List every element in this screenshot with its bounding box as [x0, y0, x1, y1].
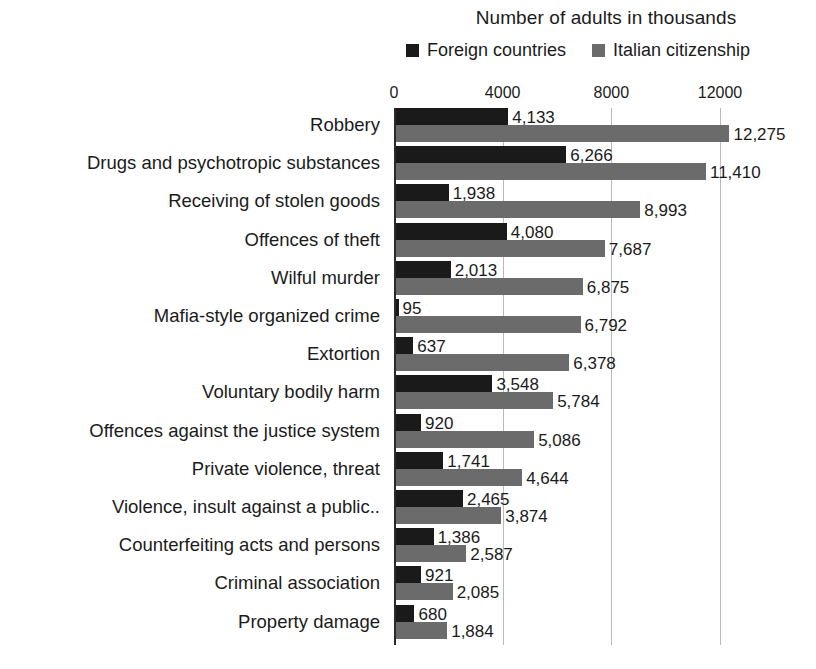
bar-value-label: 2,587 [470, 546, 513, 563]
x-axis-tick-labels: 04000800012000 [0, 84, 816, 104]
bar-foreign-countries [396, 299, 399, 316]
bar-value-label: 6,266 [570, 147, 613, 164]
x-tick-label: 0 [390, 84, 399, 102]
category-label: Criminal association [214, 573, 380, 593]
legend-label: Foreign countries [427, 40, 566, 61]
bar-value-label: 11,410 [710, 164, 761, 181]
bar-value-label: 680 [418, 606, 446, 623]
page-title: Number of adults in thousands [396, 7, 816, 29]
category-label: Offences against the justice system [89, 421, 380, 441]
bar-value-label: 3,548 [496, 376, 539, 393]
bar-italian-citizenship [396, 545, 466, 562]
category-label: Offences of theft [245, 230, 380, 250]
bar-value-label: 12,275 [733, 126, 785, 143]
bar-italian-citizenship [396, 507, 501, 524]
bar-italian-citizenship [396, 278, 583, 295]
category-label: Counterfeiting acts and persons [119, 535, 380, 555]
x-tick-label: 8000 [594, 84, 630, 102]
bar-foreign-countries [396, 414, 421, 431]
bar-value-label: 1,741 [447, 453, 490, 470]
x-tick-label: 4000 [485, 84, 521, 102]
bar-value-label: 6,875 [587, 279, 630, 296]
bar-value-label: 921 [425, 567, 453, 584]
bar-value-label: 920 [425, 415, 453, 432]
bar-chart: Number of adults in thousands Foreign co… [0, 0, 816, 669]
category-label: Drugs and psychotropic substances [87, 153, 380, 173]
bar-foreign-countries [396, 528, 434, 545]
bar-value-label: 7,687 [609, 241, 652, 258]
bar-value-label: 1,938 [453, 185, 496, 202]
bar-italian-citizenship [396, 622, 447, 639]
bar-value-label: 2,085 [457, 584, 500, 601]
bar-value-label: 1,884 [451, 623, 494, 640]
bar-value-label: 3,874 [505, 508, 548, 525]
bar-value-label: 5,784 [557, 393, 600, 410]
bar-value-label: 6,792 [585, 317, 628, 334]
bar-italian-citizenship [396, 125, 729, 142]
bar-value-label: 8,993 [644, 202, 687, 219]
bar-value-label: 2,465 [467, 491, 510, 508]
bar-foreign-countries [396, 337, 413, 354]
legend-entry: Foreign countries [406, 40, 566, 61]
category-label: Wilful murder [271, 268, 380, 288]
category-label: Robbery [310, 115, 380, 135]
legend-swatch-icon [592, 44, 605, 57]
bar-foreign-countries [396, 605, 414, 622]
y-axis-category-labels: RobberyDrugs and psychotropic substances… [0, 108, 388, 645]
bar-foreign-countries [396, 566, 421, 583]
bar-value-label: 6,378 [573, 355, 616, 372]
bar-value-label: 1,386 [438, 529, 481, 546]
legend-entry: Italian citizenship [592, 40, 750, 61]
bar-italian-citizenship [396, 240, 605, 257]
bar-foreign-countries [396, 452, 443, 469]
gridline [611, 108, 612, 645]
bar-foreign-countries [396, 375, 492, 392]
bar-italian-citizenship [396, 431, 534, 448]
chart-legend: Foreign countriesItalian citizenship [340, 38, 816, 62]
category-label: Property damage [238, 612, 380, 632]
bar-italian-citizenship [396, 354, 569, 371]
x-tick-label: 12000 [698, 84, 743, 102]
category-label: Private violence, threat [192, 459, 380, 479]
bar-value-label: 95 [403, 300, 422, 317]
bar-italian-citizenship [396, 392, 553, 409]
category-label: Receiving of stolen goods [168, 191, 380, 211]
bar-foreign-countries [396, 184, 449, 201]
category-label: Violence, insult against a public.. [112, 497, 380, 517]
bar-italian-citizenship [396, 469, 522, 486]
gridline [720, 108, 721, 645]
bar-value-label: 4,644 [526, 470, 569, 487]
bar-foreign-countries [396, 108, 508, 125]
category-label: Extortion [307, 344, 380, 364]
category-label: Voluntary bodily harm [202, 382, 380, 402]
legend-label: Italian citizenship [613, 40, 750, 61]
bar-foreign-countries [396, 223, 507, 240]
plot-area: 4,13312,2756,26611,4101,9388,9934,0807,6… [394, 108, 740, 645]
bar-italian-citizenship [396, 316, 581, 333]
bar-foreign-countries [396, 146, 566, 163]
bar-italian-citizenship [396, 583, 453, 600]
legend-swatch-icon [406, 44, 419, 57]
bar-value-label: 4,133 [512, 109, 555, 126]
bar-foreign-countries [396, 261, 451, 278]
bar-italian-citizenship [396, 163, 706, 180]
category-label: Mafia-style organized crime [154, 306, 380, 326]
bar-value-label: 5,086 [538, 432, 581, 449]
bar-italian-citizenship [396, 201, 640, 218]
bar-value-label: 4,080 [511, 224, 554, 241]
bar-foreign-countries [396, 490, 463, 507]
bar-value-label: 2,013 [455, 262, 498, 279]
bar-value-label: 637 [417, 338, 445, 355]
